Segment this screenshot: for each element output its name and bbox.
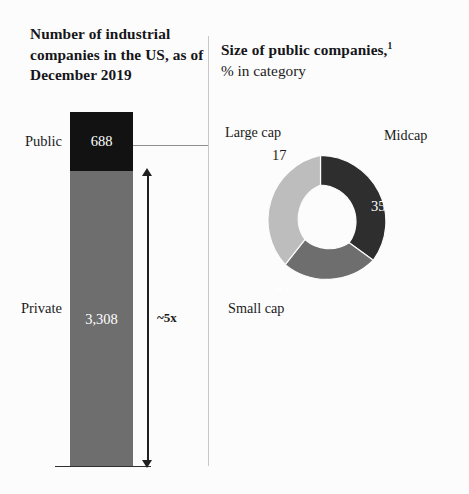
right-panel-subtitle: % in category — [221, 61, 306, 82]
stacked-bar-chart: 688 3,308 — [70, 112, 133, 466]
bar-segment-public[interactable]: 688 — [70, 112, 133, 171]
donut-label-largecap: Large cap — [225, 124, 281, 141]
donut-label-smallcap: Small cap — [228, 300, 284, 317]
figure-root: Number of industrial companies in the US… — [0, 0, 469, 494]
public-leader-line — [133, 145, 208, 146]
multiplier-arrow — [140, 168, 156, 468]
left-panel-title: Number of industrial companies in the US… — [30, 24, 205, 86]
donut-chart — [254, 155, 387, 288]
panel-divider — [208, 36, 209, 466]
right-panel-title-text: Size of public companies, — [221, 41, 388, 58]
footnote-marker: 1 — [388, 41, 393, 51]
donut-value-smallcap: 49 — [275, 279, 290, 296]
bar-baseline-axis — [55, 466, 151, 467]
multiplier-annotation-label: ~5x — [157, 310, 177, 326]
arrow-head-down-icon — [142, 460, 152, 468]
bar-category-label-public: Public — [18, 133, 62, 150]
bar-value-private: 3,308 — [85, 310, 118, 327]
bar-category-label-private: Private — [14, 300, 62, 317]
bar-value-public: 688 — [91, 133, 113, 150]
donut-value-midcap: 35 — [371, 198, 386, 215]
donut-label-midcap: Midcap — [384, 127, 427, 144]
right-panel-title: Size of public companies,1 — [221, 40, 456, 61]
donut-value-largecap: 17 — [272, 147, 287, 164]
arrow-shaft — [147, 175, 149, 461]
bar-segment-private[interactable]: 3,308 — [70, 171, 133, 466]
